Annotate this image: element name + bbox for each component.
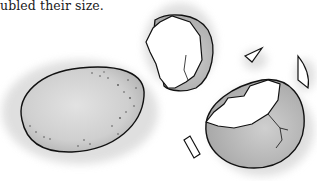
eggshell-top-half [146,15,213,91]
eggs-illustration [0,0,317,181]
eggshell-bottom-half [206,80,304,168]
shell-fragment-3 [184,136,200,158]
